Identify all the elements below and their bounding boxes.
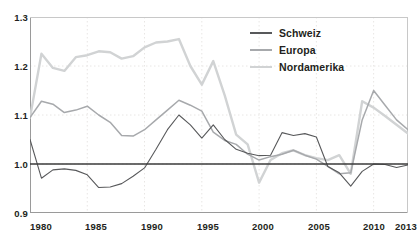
y-tick-1-0: 1.0 xyxy=(2,160,28,170)
series-line-schweiz xyxy=(30,115,408,188)
plot-area xyxy=(30,17,408,213)
legend-label-nordamerika: Nordamerika xyxy=(279,62,344,73)
y-axis-labels: 1.3 1.2 1.1 1.0 0.9 xyxy=(0,0,28,243)
legend-swatch-schweiz xyxy=(250,32,272,33)
legend-swatch-europa xyxy=(250,49,272,51)
y-tick-1-2: 1.2 xyxy=(2,62,28,72)
y-tick-1-1: 1.1 xyxy=(2,111,28,121)
y-tick-1-3: 1.3 xyxy=(2,13,28,23)
legend: Schweiz Europa Nordamerika xyxy=(250,26,344,74)
legend-label-europa: Europa xyxy=(279,45,316,56)
x-tick-2013: 2013 xyxy=(395,222,417,232)
x-tick-1995: 1995 xyxy=(197,222,219,232)
legend-label-schweiz: Schweiz xyxy=(279,28,321,39)
x-tick-1980: 1980 xyxy=(30,222,52,232)
legend-swatch-nordamerika xyxy=(250,66,272,68)
legend-item-schweiz: Schweiz xyxy=(250,26,344,40)
x-tick-1990: 1990 xyxy=(141,222,163,232)
x-tick-2000: 2000 xyxy=(252,222,274,232)
series-lines xyxy=(30,39,408,187)
series-line-nordamerika xyxy=(30,39,408,183)
y-tick-0-9: 0.9 xyxy=(2,209,28,219)
x-tick-2010: 2010 xyxy=(363,222,385,232)
plot-svg xyxy=(30,17,408,213)
gridlines xyxy=(30,17,408,213)
x-tick-1985: 1985 xyxy=(85,222,107,232)
legend-item-europa: Europa xyxy=(250,43,344,57)
x-tick-2005: 2005 xyxy=(308,222,330,232)
legend-item-nordamerika: Nordamerika xyxy=(250,60,344,74)
